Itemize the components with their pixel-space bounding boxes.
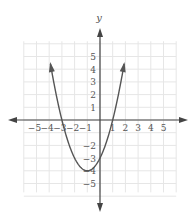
y-tick-label: 1 <box>90 103 96 113</box>
x-tick-label: 4 <box>148 123 154 133</box>
y-tick-label: −3 <box>83 154 97 164</box>
x-axis-left-arrow-icon <box>8 117 17 123</box>
x-tick-label: −1 <box>79 123 92 133</box>
curve-arrow-icon <box>120 62 126 72</box>
y-axis-label: y <box>95 12 102 23</box>
x-tick-label: 5 <box>161 123 167 133</box>
y-axis-up-arrow-icon <box>97 28 103 37</box>
axes <box>8 28 188 212</box>
x-tick-label: 1 <box>110 123 116 133</box>
x-tick-label: −3 <box>53 123 67 133</box>
y-tick-label: 5 <box>90 52 96 62</box>
y-tick-label: 2 <box>90 90 96 100</box>
curve-arrow-icon <box>49 62 55 72</box>
parabola-graph: −5−4−3−2−11234554321−2−3−4−5 y <box>0 0 191 219</box>
y-tick-label: −4 <box>83 166 97 176</box>
x-tick-label: 2 <box>123 123 129 133</box>
y-tick-label: 3 <box>90 77 96 87</box>
x-tick-label: −4 <box>41 123 55 133</box>
x-tick-label: −5 <box>28 123 42 133</box>
x-axis-right-arrow-icon <box>179 117 188 123</box>
y-tick-label: 4 <box>90 65 96 75</box>
x-tick-label: −2 <box>66 123 79 133</box>
y-tick-label: −5 <box>83 179 97 189</box>
x-tick-label: 3 <box>135 123 141 133</box>
y-tick-label: −2 <box>83 141 96 151</box>
y-axis-down-arrow-icon <box>97 203 103 212</box>
